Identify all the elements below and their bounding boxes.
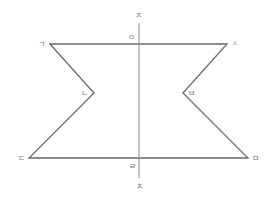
vertex-label-siot: ㅅ xyxy=(231,39,238,48)
axis-top-label: ㅈ xyxy=(135,11,142,20)
bottom-intersection-label: ㄹ xyxy=(129,162,136,171)
vertex-label-giyeok: ㄱ xyxy=(38,40,45,49)
polygon-diagram: ㅈ ㅇ ㄹ ㅊ ㄱ ㅅ ㄴ ㅂ ㄷ ㅁ xyxy=(0,0,275,204)
vertex-label-bieup: ㅂ xyxy=(188,89,195,98)
vertex-label-digeut: ㄷ xyxy=(18,154,25,163)
top-intersection-label: ㅇ xyxy=(128,33,135,42)
vertex-label-mieum: ㅁ xyxy=(252,154,259,163)
axis-bottom-label: ㅊ xyxy=(136,182,143,191)
vertex-label-nieun: ㄴ xyxy=(81,89,88,98)
